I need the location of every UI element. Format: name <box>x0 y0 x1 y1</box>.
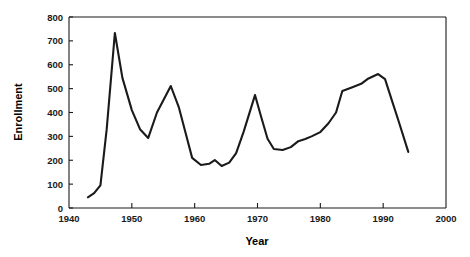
y-axis-title: Enrollment <box>12 83 24 141</box>
y-tick-label: 500 <box>47 83 63 94</box>
x-tick-label: 1990 <box>373 213 394 224</box>
x-tick-label: 2000 <box>435 213 456 224</box>
y-tick-label: 200 <box>47 155 63 166</box>
x-tick-label: 1940 <box>58 213 79 224</box>
y-axis-ticks <box>69 17 73 208</box>
y-tick-label: 100 <box>47 179 63 190</box>
x-tick-label: 1980 <box>310 213 331 224</box>
y-tick-label: 800 <box>47 12 63 23</box>
x-axis-title: Year <box>245 235 269 247</box>
enrollment-series-line <box>88 33 408 197</box>
y-tick-label: 600 <box>47 59 63 70</box>
plot-frame <box>69 17 446 208</box>
chart-figure: 0100200300400500600700800 19401950196019… <box>0 0 470 257</box>
y-tick-label: 700 <box>47 35 63 46</box>
x-tick-label: 1960 <box>184 213 205 224</box>
y-axis-tick-labels: 0100200300400500600700800 <box>47 12 63 214</box>
x-axis-tick-labels: 1940195019601970198019902000 <box>58 213 456 224</box>
y-tick-label: 400 <box>47 107 63 118</box>
y-tick-label: 300 <box>47 131 63 142</box>
enrollment-line-chart: 0100200300400500600700800 19401950196019… <box>0 0 470 257</box>
x-tick-label: 1970 <box>247 213 268 224</box>
x-axis-ticks <box>132 203 383 208</box>
x-tick-label: 1950 <box>121 213 142 224</box>
y-tick-label: 0 <box>58 203 63 214</box>
